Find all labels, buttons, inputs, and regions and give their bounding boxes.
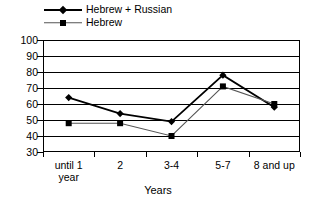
legend-item-hebrew: Hebrew — [44, 16, 172, 29]
x-axis-tick-label: until 1 year — [55, 159, 83, 183]
legend-label-hebrew-russian: Hebrew + Russian — [82, 3, 172, 16]
y-axis-tick-label: 100 — [12, 34, 38, 46]
chart-container: Hebrew + Russian Hebrew 1009080706050403… — [0, 0, 316, 204]
y-axis-tick — [37, 56, 43, 57]
legend-key-hebrew — [44, 16, 82, 29]
y-axis-tick — [37, 40, 43, 41]
x-axis-tick-label: 2 — [117, 159, 123, 171]
x-axis-tick — [197, 152, 198, 157]
y-axis-tick-label: 90 — [12, 50, 38, 62]
y-axis-tick — [37, 120, 43, 121]
legend-item-hebrew-russian: Hebrew + Russian — [44, 3, 172, 16]
x-axis-title: Years — [0, 184, 316, 196]
gridline — [44, 104, 299, 105]
y-axis-tick-label: 80 — [12, 66, 38, 78]
x-axis-tick — [300, 152, 301, 157]
chart-legend: Hebrew + Russian Hebrew — [44, 3, 172, 29]
y-axis-tick-label: 70 — [12, 82, 38, 94]
x-axis-tick — [43, 152, 44, 157]
y-axis-tick-label: 60 — [12, 98, 38, 110]
x-axis-tick — [146, 152, 147, 157]
legend-key-hebrew-russian — [44, 3, 82, 16]
x-axis-tick — [94, 152, 95, 157]
gridline — [44, 56, 299, 57]
y-axis-tick-label: 30 — [12, 146, 38, 158]
y-axis-tick — [37, 88, 43, 89]
gridline — [44, 72, 299, 73]
x-axis-tick-label: 5-7 — [215, 159, 230, 171]
diamond-marker-icon — [59, 5, 67, 13]
gridline — [44, 136, 299, 137]
square-marker-icon — [60, 20, 66, 26]
y-axis-tick-label: 50 — [12, 114, 38, 126]
gridline — [44, 88, 299, 89]
y-axis-tick — [37, 104, 43, 105]
gridline — [44, 120, 299, 121]
y-axis-tick — [37, 72, 43, 73]
plot-area — [43, 40, 300, 152]
legend-label-hebrew: Hebrew — [82, 16, 122, 29]
x-axis-tick-label: 8 and up — [254, 159, 295, 171]
y-axis-tick-label: 40 — [12, 130, 38, 142]
x-axis-tick — [249, 152, 250, 157]
x-axis-tick-label: 3-4 — [164, 159, 179, 171]
y-axis-tick — [37, 136, 43, 137]
